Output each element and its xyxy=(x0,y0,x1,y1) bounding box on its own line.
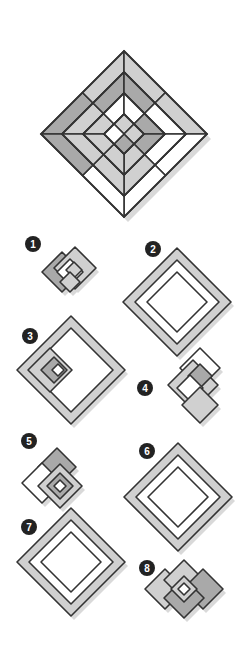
answer-option-3[interactable]: 3 xyxy=(17,316,128,428)
puzzle-canvas: 12345678 xyxy=(0,0,251,650)
answer-option-8[interactable]: 8 xyxy=(139,560,226,622)
option-number-badge: 4 xyxy=(137,380,153,396)
answer-option-2[interactable]: 2 xyxy=(123,241,234,360)
option-number-label: 3 xyxy=(27,331,33,342)
option-number-label: 4 xyxy=(142,383,148,394)
answer-options: 12345678 xyxy=(17,236,235,622)
option-number-label: 1 xyxy=(30,239,36,250)
answer-option-5[interactable]: 5 xyxy=(21,433,85,512)
option-number-label: 8 xyxy=(144,563,150,574)
option-number-label: 7 xyxy=(26,522,32,533)
option-number-label: 5 xyxy=(26,436,32,447)
option-number-badge: 8 xyxy=(139,560,155,576)
option-number-badge: 5 xyxy=(21,433,37,449)
option-number-badge: 7 xyxy=(21,519,37,535)
option-number-badge: 1 xyxy=(25,236,41,252)
option-number-badge: 3 xyxy=(22,328,38,344)
answer-option-1[interactable]: 1 xyxy=(25,236,99,296)
main-diamond-figure xyxy=(41,51,211,222)
answer-option-7[interactable]: 7 xyxy=(17,508,128,620)
answer-option-6[interactable]: 6 xyxy=(124,443,235,555)
option-number-label: 6 xyxy=(144,446,150,457)
option-number-label: 2 xyxy=(150,244,156,255)
option-number-badge: 2 xyxy=(145,241,161,257)
option-number-badge: 6 xyxy=(139,443,155,459)
